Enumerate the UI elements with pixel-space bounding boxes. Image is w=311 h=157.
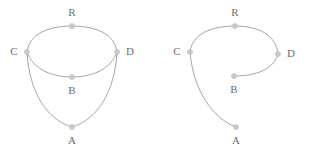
graph-node-label-c: C	[173, 45, 180, 57]
graph-figures-svg: RCDBARCDBA	[0, 0, 311, 157]
graph-node-a[interactable]	[233, 124, 238, 129]
graph-edge	[72, 26, 117, 52]
graph-edge	[190, 52, 236, 127]
graph-node-c[interactable]	[24, 49, 29, 54]
graph-node-label-a: A	[68, 134, 76, 146]
graph-node-label-d: D	[126, 45, 134, 57]
labels-layer: RCDBARCDBA	[10, 6, 295, 146]
graph-node-d[interactable]	[114, 49, 119, 54]
graph-node-label-r: R	[68, 6, 76, 18]
edges-layer	[27, 26, 278, 127]
graph-node-label-d: D	[287, 47, 295, 59]
graph-node-label-c: C	[10, 45, 17, 57]
graph-node-r[interactable]	[232, 23, 237, 28]
graph-node-label-r: R	[231, 6, 239, 18]
graph-node-r[interactable]	[69, 23, 74, 28]
graph-edge	[72, 52, 117, 77]
graph-node-c[interactable]	[187, 49, 192, 54]
diagram-canvas: RCDBARCDBA	[0, 0, 311, 157]
graph-edge	[234, 54, 278, 76]
graph-edge	[27, 52, 72, 77]
graph-node-label-b: B	[68, 84, 75, 96]
graph-edge	[190, 26, 235, 52]
graph-edge	[27, 26, 72, 52]
graph-node-b[interactable]	[69, 74, 74, 79]
graph-node-b[interactable]	[231, 73, 236, 78]
graph-edge	[235, 26, 278, 54]
graph-node-a[interactable]	[69, 124, 74, 129]
graph-node-label-a: A	[232, 134, 240, 146]
graph-node-d[interactable]	[275, 51, 280, 56]
graph-node-label-b: B	[230, 83, 237, 95]
